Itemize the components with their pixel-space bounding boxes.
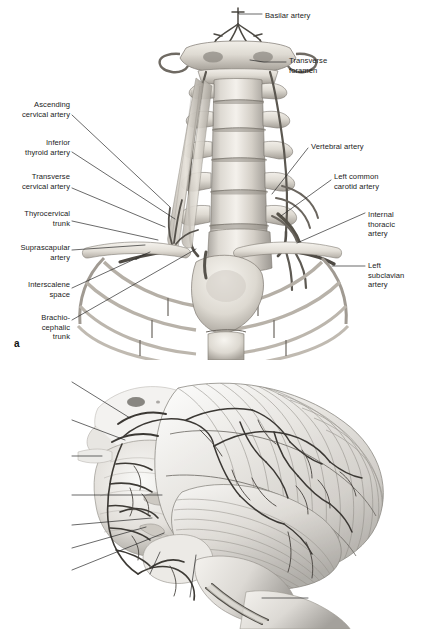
label-ascending-cervical-artery: Ascending cervical artery xyxy=(4,100,70,119)
label-left-subclavian-artery: Left subclavian artery xyxy=(368,261,424,290)
leader-inferior-thyroid xyxy=(72,152,175,219)
label-left-common-carotid-artery: Left common carotid artery xyxy=(334,172,422,191)
label-internal-thoracic-artery: Internal thoracic artery xyxy=(368,210,424,239)
manubrium-sternum xyxy=(192,255,264,360)
label-interscalene-space: Interscalene space xyxy=(4,280,70,299)
brachiocephalic-trunk-vessel xyxy=(205,252,207,278)
leader-transverse-cervical xyxy=(72,188,165,227)
leader-thyrocervical-trunk xyxy=(72,221,158,240)
label-vertebral-artery: Vertebral artery xyxy=(311,142,407,152)
label-transverse-foramen: Transverse foramen xyxy=(289,56,359,75)
label-basilar-artery: Basilar artery xyxy=(265,11,355,21)
label-inferior-thyroid-artery: Inferior thyroid artery xyxy=(4,138,70,157)
cerebellum-illustration xyxy=(0,360,424,629)
leader-internal-thoracic xyxy=(297,213,365,243)
cranial-nerve-iii xyxy=(78,449,112,463)
label-transverse-cervical-artery: Transverse cervical artery xyxy=(4,172,70,191)
figure-page: Ascending cervical artery Inferior thyro… xyxy=(0,0,424,629)
label-suprascapular-artery: Suprascapular artery xyxy=(4,243,70,262)
panel-letter-a: a xyxy=(14,338,20,349)
label-thyrocervical-trunk: Thyrocervical trunk xyxy=(4,209,70,228)
leader-ascending-cervical xyxy=(72,115,170,207)
panel-a-neck-arteries: Ascending cervical artery Inferior thyro… xyxy=(0,0,424,360)
panel-b-cerebellum-arteries: Posterior cerebral a. Superior cerebella… xyxy=(0,360,424,629)
